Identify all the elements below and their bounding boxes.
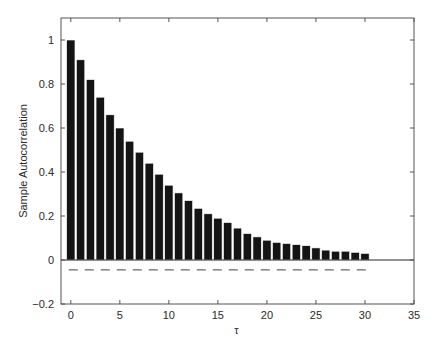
bar-lag-11 (174, 193, 182, 260)
bar-lag-26 (322, 250, 330, 260)
x-tick-label: 15 (212, 309, 224, 321)
bar-lag-3 (96, 97, 104, 260)
bar-lag-27 (331, 251, 339, 260)
bar-lag-20 (263, 240, 271, 260)
bar-lag-8 (145, 163, 153, 260)
x-tick-label: 5 (117, 309, 123, 321)
bar-lag-28 (341, 251, 349, 260)
y-tick-label: 0.4 (39, 166, 54, 178)
y-tick-label: −0.2 (32, 298, 54, 310)
x-tick-label: 25 (310, 309, 322, 321)
bar-lag-9 (155, 174, 163, 260)
bar-lag-0 (67, 40, 75, 260)
bar-lag-25 (312, 248, 320, 260)
y-tick-label: 0.2 (39, 210, 54, 222)
bar-lag-4 (106, 115, 114, 260)
bar-lag-22 (282, 244, 290, 261)
bar-lag-15 (214, 218, 222, 260)
bar-lag-17 (233, 228, 241, 260)
bar-lag-13 (194, 208, 202, 260)
y-tick-label: 0 (48, 254, 54, 266)
x-tick-label: 0 (68, 309, 74, 321)
bar-lag-21 (273, 242, 281, 260)
bar-series (67, 40, 370, 260)
bar-lag-5 (116, 128, 124, 260)
y-tick-label: 1 (48, 34, 54, 46)
y-tick-label: 0.8 (39, 78, 54, 90)
bar-lag-19 (253, 237, 261, 260)
x-tick-label: 10 (163, 309, 175, 321)
bar-lag-14 (204, 214, 212, 260)
bar-lag-16 (224, 223, 232, 260)
bar-lag-23 (292, 245, 300, 260)
autocorrelation-chart: 05101520253035 −0.200.20.40.60.81 τ Samp… (0, 0, 435, 354)
x-tick-label: 20 (261, 309, 273, 321)
bar-lag-24 (302, 246, 310, 260)
bar-lag-29 (351, 252, 359, 260)
bar-lag-18 (243, 234, 251, 260)
bar-lag-12 (184, 201, 192, 260)
y-axis-label: Sample Autocorrelation (17, 104, 29, 218)
bar-lag-30 (361, 253, 369, 260)
bar-lag-2 (86, 80, 94, 260)
x-axis-label: τ (234, 324, 239, 336)
x-tick-label: 35 (408, 309, 420, 321)
bar-lag-7 (135, 152, 143, 260)
reference-lines (61, 260, 414, 270)
bar-lag-6 (125, 141, 133, 260)
y-tick-label: 0.6 (39, 122, 54, 134)
x-tick-label: 30 (359, 309, 371, 321)
bar-lag-1 (76, 60, 84, 260)
bar-lag-10 (165, 185, 173, 260)
